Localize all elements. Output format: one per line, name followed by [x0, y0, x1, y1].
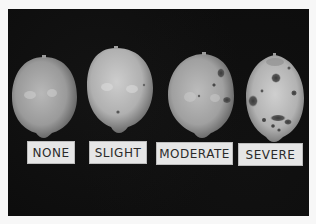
stem-icon: [42, 55, 46, 58]
label-severe: SEVERE: [238, 143, 303, 166]
lemon-slight: [87, 46, 153, 133]
stem-icon: [114, 46, 118, 49]
lemons-illustration: [0, 0, 316, 224]
lemon-moderate: [168, 52, 234, 138]
stem-icon: [273, 53, 276, 56]
label-moderate: MODERATE: [156, 142, 233, 165]
label-slight: SLIGHT: [89, 141, 147, 164]
lemon-none: [12, 55, 77, 138]
stem-icon: [202, 52, 206, 55]
label-none: NONE: [27, 141, 75, 164]
lemon-severe: [246, 53, 304, 142]
